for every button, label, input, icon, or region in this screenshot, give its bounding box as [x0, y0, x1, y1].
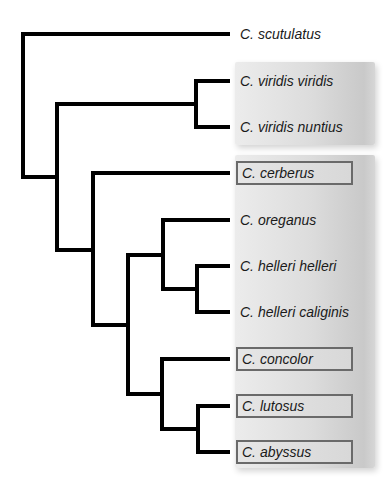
leaf-label-concolor: C. concolor [236, 347, 353, 371]
branch-node-4 [128, 255, 162, 394]
branch-helleri [197, 266, 228, 312]
branch-lutosus-abyssus [198, 406, 228, 452]
branch-viridis [196, 81, 228, 127]
branch-node-2 [57, 104, 93, 250]
leaf-label-lutosus: C. lutosus [236, 394, 353, 418]
leaf-label-viridis-nuntius: C. viridis nuntius [236, 115, 343, 139]
leaf-label-helleri-caliginis: C. helleri caliginis [236, 300, 349, 324]
branch-node-3 [93, 173, 228, 325]
leaf-label-viridis-viridis: C. viridis viridis [236, 69, 333, 93]
leaf-label-helleri-helleri: C. helleri helleri [236, 254, 336, 278]
leaf-label-abyssus: C. abyssus [236, 440, 353, 464]
branch-node-7 [162, 359, 228, 429]
leaf-label-cerberus: C. cerberus [236, 161, 353, 185]
leaf-label-oreganus: C. oreganus [236, 208, 316, 232]
leaf-label-scutulatus: C. scutulatus [236, 22, 321, 46]
